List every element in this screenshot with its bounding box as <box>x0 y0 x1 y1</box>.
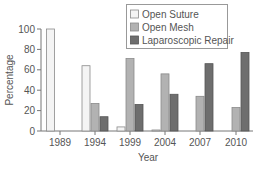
bar-open-mesh <box>126 59 134 131</box>
bar-laparoscopic-repair <box>100 117 108 131</box>
bar-laparoscopic-repair <box>170 94 178 131</box>
bar-open-suture <box>47 29 55 131</box>
bar-open-mesh <box>161 74 169 131</box>
legend-swatch <box>131 10 139 18</box>
bar-open-suture <box>82 66 90 131</box>
legend-label: Open Suture <box>142 9 199 20</box>
bar-open-mesh <box>91 103 99 131</box>
y-tick-label: 0 <box>29 126 35 137</box>
legend-label: Laparoscopic Repair <box>142 35 234 46</box>
x-tick-label: 1999 <box>119 137 142 148</box>
bar-open-suture <box>152 130 160 131</box>
legend-swatch <box>131 23 139 31</box>
y-axis-label: Percentage <box>4 54 15 106</box>
y-tick-label: 40 <box>24 85 36 96</box>
y-tick-label: 20 <box>24 105 36 116</box>
y-tick-label: 60 <box>24 64 36 75</box>
bar-open-suture <box>117 127 125 131</box>
x-tick-label: 1994 <box>84 137 107 148</box>
bar-laparoscopic-repair <box>205 64 213 131</box>
legend: Open SutureOpen MeshLaparoscopic Repair <box>127 5 235 49</box>
x-tick-label: 1989 <box>49 137 72 148</box>
x-tick-label: 2007 <box>189 137 212 148</box>
bar-open-mesh <box>232 108 240 131</box>
bar-laparoscopic-repair <box>135 104 143 131</box>
bar-open-mesh <box>196 96 204 131</box>
legend-swatch <box>131 36 139 44</box>
bar-laparoscopic-repair <box>241 52 249 131</box>
x-tick-label: 2004 <box>154 137 177 148</box>
bar-chart: 020406080100198919941999200420072010 Ope… <box>0 0 258 171</box>
legend-label: Open Mesh <box>142 22 194 33</box>
x-axis-label: Year <box>138 152 159 163</box>
y-tick-label: 80 <box>24 44 36 55</box>
y-tick-label: 100 <box>18 24 35 35</box>
x-tick-label: 2010 <box>225 137 248 148</box>
